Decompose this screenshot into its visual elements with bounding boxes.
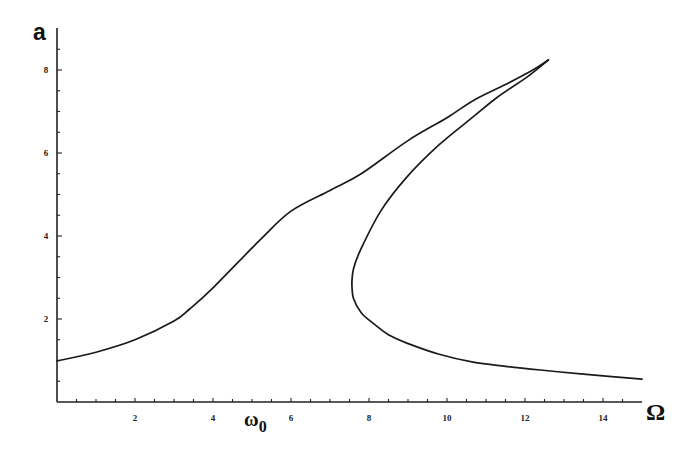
y-tick-label: 8 — [44, 65, 49, 75]
lower-branch-curve — [352, 283, 642, 379]
y-tick-label: 6 — [44, 148, 49, 158]
x-tick-label: 10 — [443, 413, 453, 423]
omega0-subscript: 0 — [259, 418, 267, 435]
y-tick-label: 4 — [44, 231, 49, 241]
x-tick-label: 12 — [521, 413, 531, 423]
tick-marks — [57, 49, 623, 402]
panel-label: a — [33, 19, 46, 45]
response-curves — [57, 60, 642, 379]
axes — [57, 28, 642, 402]
tick-labels: 24681012142468 — [44, 65, 608, 423]
x-tick-label: 8 — [367, 413, 372, 423]
x-tick-label: 14 — [599, 413, 609, 423]
x-axis-title: Ω — [646, 399, 665, 425]
unstable-branch-curve — [352, 60, 549, 283]
omega0-symbol: ω — [244, 408, 259, 430]
upper-branch-curve — [57, 60, 548, 361]
x-tick-label: 2 — [133, 413, 138, 423]
y-tick-label: 2 — [44, 314, 49, 324]
omega0-marker-label: ω0 — [244, 408, 267, 435]
frequency-response-chart: 24681012142468 a Ω ω0 — [0, 0, 699, 452]
x-tick-label: 4 — [211, 413, 216, 423]
x-tick-label: 6 — [289, 413, 294, 423]
